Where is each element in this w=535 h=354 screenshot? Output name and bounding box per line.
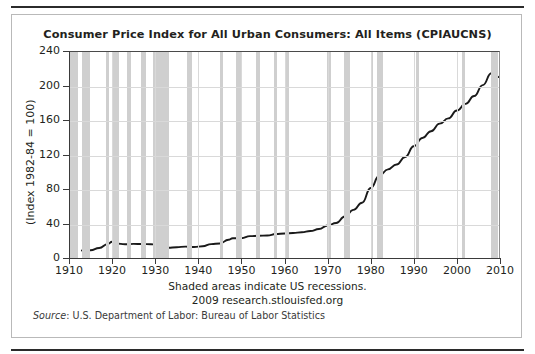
gridline-vertical	[371, 52, 372, 258]
x-tick-label: 1910	[46, 264, 92, 277]
x-tick-label: 1950	[218, 264, 264, 277]
y-tick	[63, 51, 69, 52]
y-axis-line	[69, 51, 70, 259]
gridline-vertical	[457, 52, 458, 258]
y-tick-label: 120	[20, 148, 60, 161]
plot-area	[69, 51, 500, 258]
source-line: Source: U.S. Department of Labor: Bureau…	[33, 310, 325, 321]
y-tick-label: 200	[20, 79, 60, 92]
recession-note: Shaded areas indicate US recessions.	[0, 280, 535, 292]
source-label: Source	[33, 310, 66, 321]
x-tick-label: 1920	[89, 264, 135, 277]
y-tick	[63, 86, 69, 87]
gridline-vertical	[198, 52, 199, 258]
y-tick	[63, 224, 69, 225]
y-tick-label: 40	[20, 217, 60, 230]
y-tick	[63, 189, 69, 190]
figure-page: Consumer Price Index for All Urban Consu…	[0, 0, 535, 354]
y-tick-label: 0	[20, 251, 60, 264]
gridline-vertical	[414, 52, 415, 258]
y-tick-label: 80	[20, 182, 60, 195]
y-tick	[63, 155, 69, 156]
x-tick-label: 1980	[348, 264, 394, 277]
y-tick-label: 160	[20, 113, 60, 126]
gridline-vertical	[241, 52, 242, 258]
y-tick-label: 240	[20, 44, 60, 57]
x-tick-label: 2010	[477, 264, 523, 277]
x-tick-label: 1930	[132, 264, 178, 277]
bottom-divider	[11, 349, 524, 351]
source-text: : U.S. Department of Labor: Bureau of La…	[66, 310, 325, 321]
y-tick	[63, 120, 69, 121]
x-tick-label: 2000	[434, 264, 480, 277]
x-tick-label: 1960	[262, 264, 308, 277]
x-tick-label: 1990	[391, 264, 437, 277]
source-url-note: 2009 research.stlouisfed.org	[0, 294, 535, 306]
chart-title: Consumer Price Index for All Urban Consu…	[0, 28, 535, 41]
gridline-vertical	[112, 52, 113, 258]
gridline-vertical	[155, 52, 156, 258]
x-tick-label: 1940	[175, 264, 221, 277]
gridline-vertical	[285, 52, 286, 258]
gridline-vertical	[328, 52, 329, 258]
top-divider	[11, 6, 524, 8]
x-tick-label: 1970	[305, 264, 351, 277]
